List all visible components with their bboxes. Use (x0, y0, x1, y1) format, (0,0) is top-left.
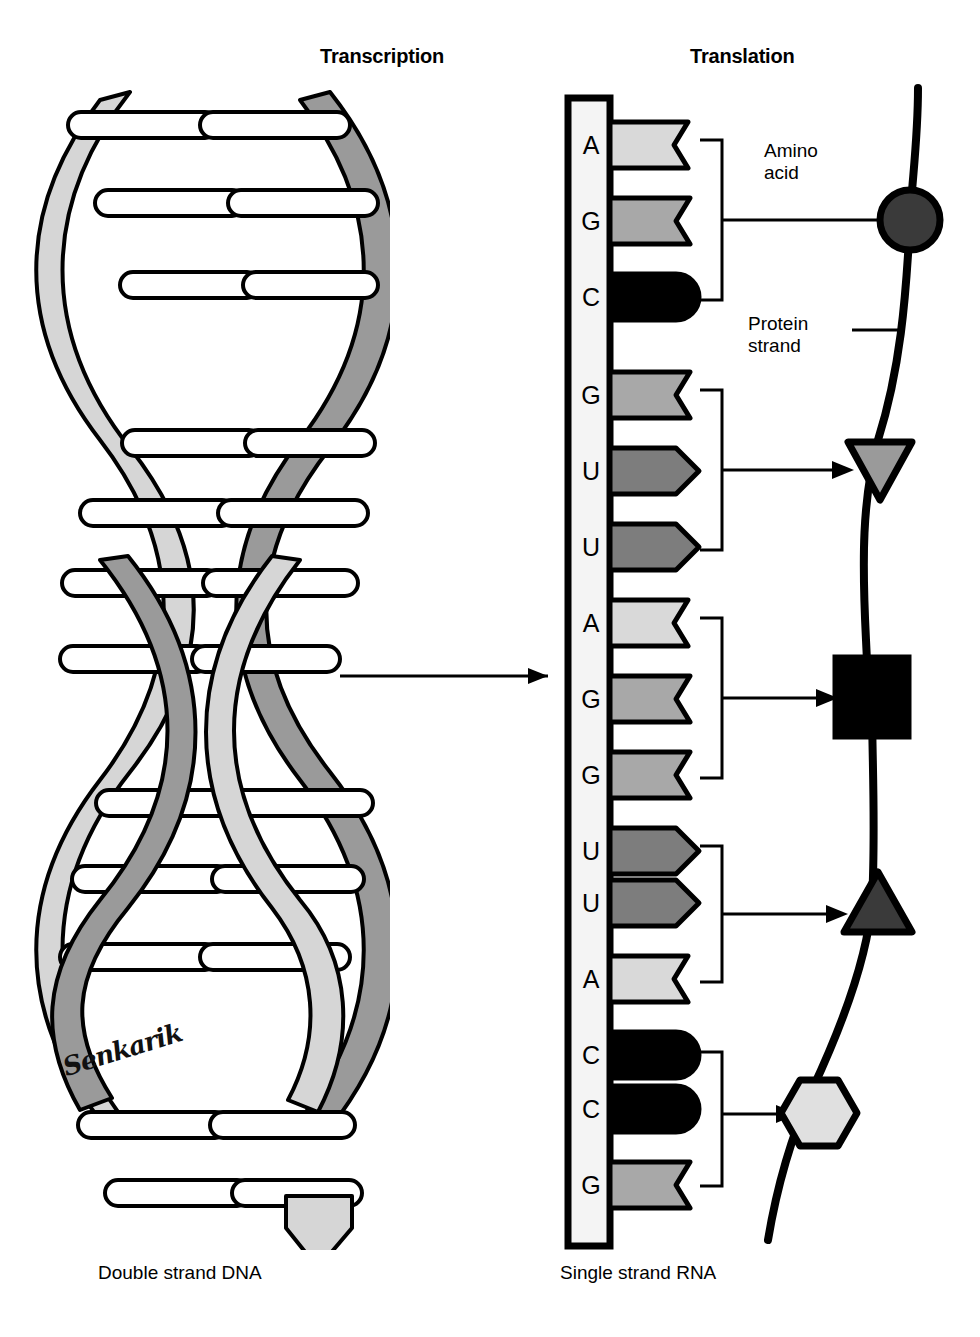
rna-and-protein: A G C G U U A G G U U A C C G (0, 0, 980, 1337)
rna-base-shape (610, 880, 699, 926)
label-amino-acid: Amino acid (764, 140, 818, 185)
rna-base-shape (610, 600, 688, 646)
svg-text:C: C (582, 283, 600, 311)
svg-text:G: G (581, 1171, 600, 1199)
amino-acid-triangle-up (844, 872, 912, 932)
rna-base-shape (610, 448, 699, 494)
rna-base-shape (610, 274, 699, 320)
codon-brackets (700, 140, 722, 1186)
svg-text:U: U (582, 837, 600, 865)
rna-base-shape (610, 752, 690, 798)
rna-base-shape (610, 1032, 699, 1078)
rna-base-shape (610, 828, 699, 874)
rna-base-shape (610, 122, 688, 168)
svg-text:U: U (582, 457, 600, 485)
rna-base-shape (610, 1086, 699, 1132)
header-translation: Translation (690, 45, 795, 68)
svg-text:A: A (583, 609, 600, 637)
codon-bracket (700, 390, 722, 550)
rna-bases (610, 122, 699, 1208)
amino-acid-hexagon (781, 1080, 857, 1146)
codon-bracket (700, 846, 722, 982)
header-transcription: Transcription (320, 45, 444, 68)
svg-text:G: G (581, 207, 600, 235)
codon-bracket (700, 140, 722, 300)
rna-base-shape (610, 676, 690, 722)
svg-text:A: A (583, 965, 600, 993)
caption-single-strand-rna: Single strand RNA (560, 1262, 716, 1284)
svg-text:C: C (582, 1041, 600, 1069)
amino-acid-circle (880, 190, 940, 250)
svg-text:A: A (583, 131, 600, 159)
caption-double-strand-dna: Double strand DNA (98, 1262, 262, 1284)
rna-base-shape (610, 524, 699, 570)
svg-text:G: G (581, 761, 600, 789)
svg-text:U: U (582, 533, 600, 561)
amino-acid-square (836, 658, 908, 736)
rna-backbone (568, 98, 610, 1246)
svg-text:C: C (582, 1095, 600, 1123)
rna-base-shape (610, 198, 690, 244)
figure-canvas: Senkarik (0, 0, 980, 1337)
amino-acid-triangle-down (848, 442, 912, 500)
svg-text:G: G (581, 685, 600, 713)
codon-bracket (700, 1052, 722, 1186)
rna-base-shape (610, 1162, 690, 1208)
rna-base-shape (610, 372, 690, 418)
svg-text:U: U (582, 889, 600, 917)
codon-bracket (700, 618, 722, 778)
svg-text:G: G (581, 381, 600, 409)
rna-base-shape (610, 956, 688, 1002)
label-protein-strand: Protein strand (748, 313, 808, 358)
